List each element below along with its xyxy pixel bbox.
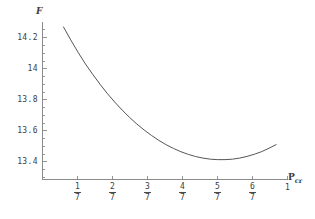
x-axis-title-base: P	[288, 172, 295, 182]
x-tick-denominator: 7	[70, 193, 85, 202]
x-tick-denominator: 7	[210, 193, 225, 202]
x-axis-title-subscript: cr	[295, 177, 302, 185]
y-tick-label-4: 13.4	[10, 157, 38, 166]
x-tick-label-0: 1 7	[70, 183, 85, 202]
chart-plot-area: 14.2 14 13.8 13.6 13.4 1 7 2 7 3 7 4 7 5…	[0, 0, 315, 219]
y-tick-label-1: 14	[10, 64, 38, 73]
y-tick-label-3: 13.6	[10, 126, 38, 135]
x-axis-ticks	[78, 176, 288, 180]
x-tick-denominator: 7	[105, 193, 120, 202]
x-tick-numerator: 4	[175, 183, 190, 192]
data-curve-line	[63, 27, 276, 160]
y-axis-title: F	[36, 6, 42, 16]
x-tick-label-4: 5 7	[210, 183, 225, 202]
y-tick-label-0: 14.2	[10, 33, 38, 42]
x-tick-label-5: 6 7	[245, 183, 260, 202]
x-tick-numerator: 6	[245, 183, 260, 192]
y-tick-label-2: 13.8	[10, 95, 38, 104]
x-tick-numerator: 5	[210, 183, 225, 192]
x-tick-numerator: 2	[105, 183, 120, 192]
x-tick-numerator: 1	[70, 183, 85, 192]
x-tick-label-2: 3 7	[140, 183, 155, 202]
x-tick-label-3: 4 7	[175, 183, 190, 202]
chart-canvas	[0, 0, 315, 219]
x-axis-title: Pcr	[288, 172, 302, 185]
x-tick-numerator: 3	[140, 183, 155, 192]
x-tick-denominator: 7	[175, 193, 190, 202]
x-tick-denominator: 7	[140, 193, 155, 202]
x-tick-label-1: 2 7	[105, 183, 120, 202]
y-axis-major-ticks	[43, 38, 47, 162]
x-tick-denominator: 7	[245, 193, 260, 202]
